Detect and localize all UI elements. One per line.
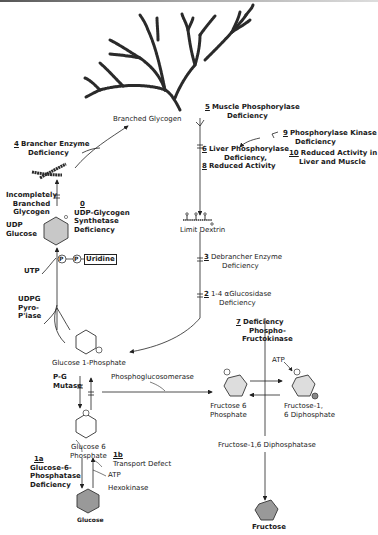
node-pg-mutase: P-G Mutase: [53, 366, 82, 390]
node-atp-pfk: ATP: [272, 356, 285, 365]
deficiency-3: 3Debrancher Enzyme Deficiency: [204, 253, 282, 270]
node-limit-dextrin: Limit Dextrin: [180, 226, 225, 235]
udp-glucose-hexagon-icon: [44, 217, 68, 245]
node-fructose-16-diphosphate: Fructose-1, 6 Diphosphate: [284, 402, 335, 419]
node-incompletely-branched-glycogen: Incompletely Branched Glycogen: [6, 191, 57, 217]
node-fructose-16-diphosphatase: Fructose-1,6 Diphosphatase: [218, 441, 316, 450]
deficiency-1b: 1b Transport Defect: [113, 451, 171, 468]
phosphate-2: P: [74, 255, 78, 264]
deficiency-4: 4Brancher Enzyme Deficiency: [14, 140, 90, 157]
node-phosphoglucosomerase: Phosphoglucosomerase: [111, 373, 194, 382]
deficiency-6: 6Liver Phosphorylase Deficiency,: [202, 145, 289, 162]
node-fructose-6-phosphate: Fructose 6 Phosphate: [210, 402, 247, 419]
node-branched-glycogen: Branched Glycogen: [113, 115, 182, 124]
node-hexokinase: Hexokinase: [108, 484, 148, 493]
fructose-6-phosphate-pentagon-icon: [224, 375, 247, 396]
glucose-1-phosphate-hexagon-icon: [76, 330, 96, 354]
node-glucose: Glucose: [77, 516, 104, 525]
limit-dextrin-icon: [183, 213, 213, 225]
fructose-16-diphosphate-pentagon-icon: [292, 375, 315, 396]
deficiency-7: 7Deficiency Phospho- Fructokinase: [236, 318, 293, 344]
node-atp-hexokinase: ATP: [108, 471, 121, 480]
deficiency-2: 21-4 αGlucosidase Deficiency: [204, 290, 271, 307]
fructose-pentagon-icon: [255, 500, 278, 520]
node-uridine: Uridine: [84, 254, 117, 265]
phosphate-1: P: [59, 255, 63, 264]
incomplete-glycogen-icon: [32, 164, 66, 178]
node-fructose: Fructose: [252, 523, 286, 532]
glycogen-tree-icon: [85, 5, 253, 110]
deficiency-9: 9Phosphorylase Kinase Deficiency: [283, 129, 377, 146]
node-udp-glucose: UDP Glucose: [6, 221, 37, 238]
glucose-hexagon-icon: [77, 489, 99, 513]
deficiency-8: 8Reduced Activity: [202, 162, 276, 171]
deficiency-5: 5Muscle Phosphorylase Deficiency: [205, 103, 300, 120]
deficiency-0: 0 UDP-Glycogen Synthetase Deficiency: [74, 200, 130, 234]
glucose-6-phosphate-hexagon-icon: [76, 414, 96, 438]
node-utp: UTP: [24, 267, 40, 276]
deficiency-1a: 1a Glucose-6- Phosphatase Deficiency: [30, 455, 81, 489]
node-udpg-pyrophosphorylase: UDPG Pyro- P'iase: [18, 295, 41, 321]
deficiency-10: 10Reduced Activity in Liver and Muscle: [289, 149, 377, 166]
